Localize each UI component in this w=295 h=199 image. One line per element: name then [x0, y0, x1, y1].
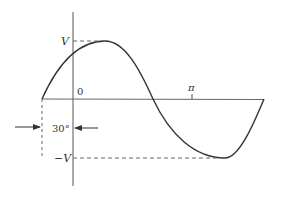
peak-label: V [61, 35, 70, 48]
phase-angle-label: 30° [52, 123, 70, 134]
pi-label: π [187, 82, 195, 93]
trough-label: −V [54, 152, 72, 165]
sine-wave-diagram: V 0 π 30° −V [0, 0, 295, 199]
origin-label: 0 [77, 86, 83, 97]
